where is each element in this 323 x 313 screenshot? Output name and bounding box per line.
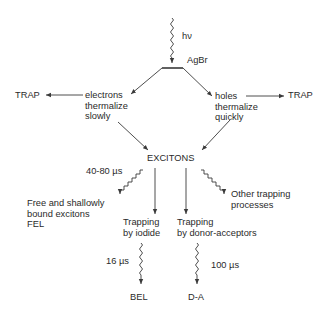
iodide-label: Trapping by iodide xyxy=(123,217,160,238)
fel-time-label: 40-80 µs xyxy=(86,166,122,177)
right-trap-label: TRAP xyxy=(288,90,313,101)
left-trap-label: TRAP xyxy=(15,90,40,101)
photon-wave-arrow xyxy=(171,18,174,63)
donor-label: Trapping by donor-acceptors xyxy=(177,217,257,238)
holes-label: holes thermalize quickly xyxy=(215,91,258,123)
excitons-label: EXCITONS xyxy=(147,153,194,164)
da-label: D-A xyxy=(188,292,204,303)
da-time-label: 100 µs xyxy=(211,260,239,271)
fel-label: Free and shallowly bound excitons FEL xyxy=(27,198,105,230)
crystal-label: AgBr xyxy=(187,55,208,66)
electrons-label: electrons thermalize slowly xyxy=(85,90,128,122)
photon-label: hν xyxy=(182,31,192,42)
bel-time-label: 16 µs xyxy=(106,256,129,267)
bel-label: BEL xyxy=(130,292,148,303)
other-label: Other trapping processes xyxy=(231,189,290,210)
